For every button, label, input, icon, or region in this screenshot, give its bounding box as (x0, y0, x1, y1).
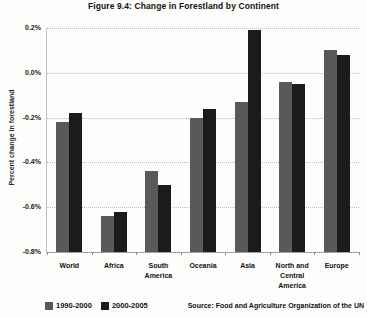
gridline (47, 252, 359, 253)
x-axis-tick (181, 252, 182, 255)
x-axis-tick (136, 252, 137, 255)
source-note: Source: Food and Agriculture Organizatio… (188, 302, 364, 309)
bar-1990-2000-world (56, 122, 69, 252)
legend-item-2000-2005: 2000-2005 (101, 301, 148, 310)
legend-label: 1990-2000 (56, 301, 92, 310)
bar-2000-2005-asia (248, 30, 261, 252)
gridline (47, 73, 359, 74)
y-tick-label: -0.6% (7, 203, 41, 210)
bar-2000-2005-europe (337, 55, 350, 252)
bar-2000-2005-south (158, 185, 171, 252)
legend-item-1990-2000: 1990-2000 (45, 301, 92, 310)
legend-swatch-icon (45, 302, 53, 310)
bar-2000-2005-africa (114, 212, 127, 252)
chart-title: Figure 9.4: Change in Forestland by Cont… (0, 1, 367, 11)
legend-swatch-icon (101, 302, 109, 310)
x-category-label: Europe (306, 261, 367, 271)
bar-2000-2005-oceania (203, 109, 216, 252)
x-axis-tick (225, 252, 226, 255)
legend-label: 2000-2005 (112, 301, 148, 310)
y-tick-label: -0.8% (7, 248, 41, 255)
bar-1990-2000-south (145, 171, 158, 252)
y-tick-label: -0.2% (7, 114, 41, 121)
bar-1990-2000-asia (235, 102, 248, 252)
bar-1990-2000-europe (324, 50, 337, 252)
plot-area: 0.2%0.0%-0.2%-0.4%-0.6%-0.8%WorldAfricaS… (46, 28, 359, 253)
figure-container: Figure 9.4: Change in Forestland by Cont… (0, 0, 367, 317)
legend: 1990-20002000-2005 (45, 301, 148, 310)
x-axis-tick (47, 252, 48, 255)
x-axis-tick (359, 252, 360, 255)
bar-2000-2005-north and (292, 84, 305, 252)
bar-2000-2005-world (69, 113, 82, 252)
x-axis-tick (314, 252, 315, 255)
bar-1990-2000-africa (101, 216, 114, 252)
y-tick-label: -0.4% (7, 158, 41, 165)
y-axis-label: Percent change in forestland (8, 83, 15, 193)
y-tick-label: 0.0% (7, 69, 41, 76)
gridline (47, 28, 359, 29)
bar-1990-2000-north and (279, 82, 292, 252)
y-tick-label: 0.2% (7, 24, 41, 31)
x-axis-tick (92, 252, 93, 255)
bar-1990-2000-oceania (190, 118, 203, 252)
x-axis-tick (270, 252, 271, 255)
